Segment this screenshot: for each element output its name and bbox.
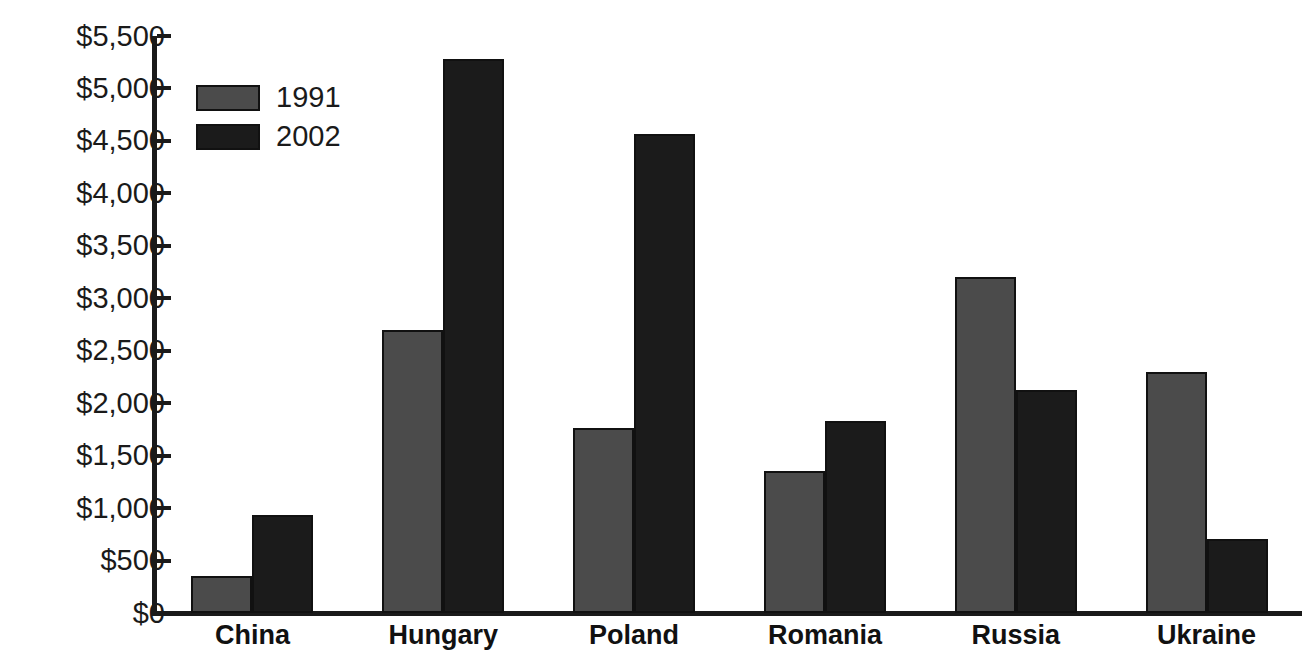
bar-group-poland [573,36,695,613]
bar-romania-2002[interactable] [825,421,886,613]
x-axis-tick-label: Hungary [388,622,498,649]
legend-swatch-2002 [196,124,260,150]
bar-group-russia [955,36,1077,613]
x-axis-tick-label: Romania [768,622,882,649]
bar-poland-1991[interactable] [573,428,634,613]
bar-hungary-1991[interactable] [382,330,443,613]
bar-ukraine-2002[interactable] [1207,539,1268,613]
bar-china-1991[interactable] [191,576,252,613]
x-axis-tick-label: Russia [971,622,1060,649]
legend-item-2002[interactable]: 2002 [196,122,341,151]
bar-russia-1991[interactable] [955,277,1016,613]
legend-item-1991[interactable]: 1991 [196,83,341,112]
legend-swatch-1991 [196,85,260,111]
chart-legend: 19912002 [196,83,341,161]
legend-label-2002: 2002 [276,122,341,151]
bar-poland-2002[interactable] [634,134,695,613]
bar-russia-2002[interactable] [1016,390,1077,613]
legend-label-1991: 1991 [276,83,341,112]
bar-chart: $0$500$1,000$1,500$2,000$2,500$3,000$3,5… [0,0,1315,669]
x-axis-tick-label: China [215,622,290,649]
bar-china-2002[interactable] [252,515,313,613]
bar-group-hungary [382,36,504,613]
bar-hungary-2002[interactable] [443,59,504,613]
x-axis-tick-label: Ukraine [1157,622,1256,649]
x-axis-tick-label: Poland [589,622,679,649]
bar-group-romania [764,36,886,613]
bar-group-ukraine [1146,36,1268,613]
bar-ukraine-1991[interactable] [1146,372,1207,613]
bar-romania-1991[interactable] [764,471,825,613]
